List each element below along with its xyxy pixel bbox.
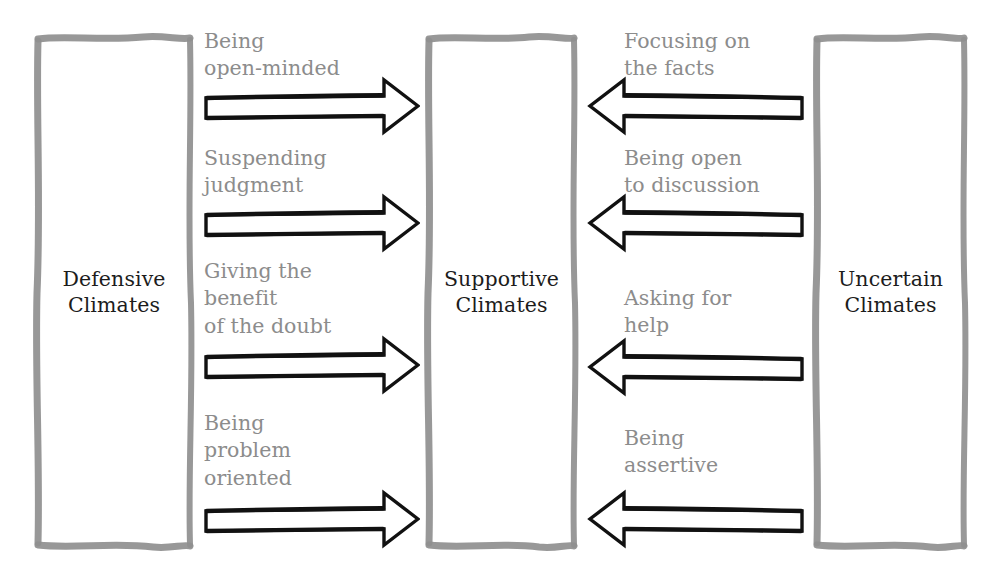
arrow-row-right-2: Being open to discussion <box>582 145 804 270</box>
arrow-row-left-1: Being open-minded <box>204 28 420 153</box>
arrow-right-1 <box>204 28 420 153</box>
arrow-row-right-1: Focusing on the facts <box>582 28 804 153</box>
arrow-left-3 <box>582 285 804 415</box>
diagram-canvas: Defensive Climates Supportive Climates U… <box>0 0 991 588</box>
climate-box-supportive-label: Supportive Climates <box>444 266 559 318</box>
climate-box-uncertain: Uncertain Climates <box>812 33 969 551</box>
arrow-row-left-3: Giving the benefit of the doubt <box>204 258 420 410</box>
arrow-right-2 <box>204 145 420 270</box>
arrow-left-4 <box>582 425 804 565</box>
arrow-row-right-3: Asking for help <box>582 285 804 415</box>
arrow-right-4 <box>204 410 420 562</box>
arrow-left-2 <box>582 145 804 270</box>
arrow-right-3 <box>204 258 420 410</box>
arrow-row-right-4: Being assertive <box>582 425 804 565</box>
climate-box-uncertain-label: Uncertain Climates <box>838 266 943 318</box>
climate-box-supportive: Supportive Climates <box>424 33 579 551</box>
arrow-left-1 <box>582 28 804 153</box>
arrow-row-left-2: Suspending judgment <box>204 145 420 270</box>
arrow-row-left-4: Being problem oriented <box>204 410 420 562</box>
climate-box-defensive: Defensive Climates <box>33 33 195 551</box>
climate-box-defensive-label: Defensive Climates <box>62 266 165 318</box>
